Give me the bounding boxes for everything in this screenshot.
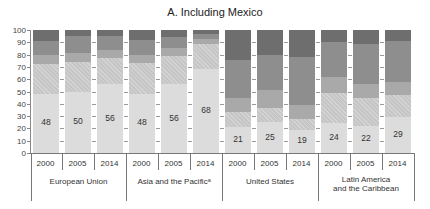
x-year-label: 2005 [158, 159, 189, 168]
x-year-label: 2005 [62, 159, 93, 168]
bar-segment [193, 30, 219, 34]
bar-segment [65, 53, 91, 62]
grid-dash [188, 67, 192, 68]
grid-dash [252, 55, 256, 56]
x-year-label: 2005 [254, 159, 285, 168]
bar-value-label: 24 [321, 132, 347, 142]
chart-title: A. Including Mexico [0, 6, 430, 18]
bar-value-label: 48 [129, 117, 155, 127]
grid-dash [284, 128, 288, 129]
grid-dash [60, 141, 64, 142]
stacked-bar [193, 30, 219, 153]
bar-segment [193, 44, 219, 70]
year-separator [62, 153, 63, 170]
bar-value-label: 25 [257, 132, 283, 142]
grid-dash [348, 92, 352, 93]
grid-dash [156, 116, 160, 117]
grid-dash [284, 79, 288, 80]
group-label-latam: Latin America and the Caribbean [318, 175, 414, 193]
bar-segment [385, 30, 411, 41]
grid-dash [348, 116, 352, 117]
grid-dash [124, 92, 128, 93]
x-year-label: 2014 [382, 159, 413, 168]
grid-dash [92, 128, 96, 129]
grid-dash [124, 128, 128, 129]
grid-dash [252, 104, 256, 105]
year-separator [286, 153, 287, 170]
y-tick-label: 40 [0, 99, 26, 108]
grid-dash [380, 42, 384, 43]
bar-segment [289, 30, 315, 57]
bar-segment [33, 64, 59, 94]
bar-value-label: 22 [353, 133, 379, 143]
bar-segment [65, 36, 91, 53]
bar-segment [385, 41, 411, 82]
grid-dash [92, 141, 96, 142]
grid-dash [92, 55, 96, 56]
grid-dash [348, 79, 352, 80]
bar-segment [161, 30, 187, 37]
stacked-bar [161, 30, 187, 153]
grid-dash [60, 55, 64, 56]
grid-dash [92, 104, 96, 105]
y-tick-label: 90 [0, 38, 26, 47]
year-separator [382, 153, 383, 170]
grid-dash [188, 92, 192, 93]
bar-value-label: 50 [65, 116, 91, 126]
group-label-latam-line1: Latin America [318, 175, 414, 184]
bar-segment [321, 93, 347, 124]
bar-segment [353, 98, 379, 126]
y-tick-label: 30 [0, 112, 26, 121]
grid-dash [284, 116, 288, 117]
grid-dash [188, 141, 192, 142]
grid-dash [60, 42, 64, 43]
x-year-label: 2000 [126, 159, 157, 168]
grid-dash [124, 104, 128, 105]
bar-segment [225, 60, 251, 98]
grid-dash [316, 116, 320, 117]
grid-dash [348, 104, 352, 105]
bar-segment [353, 84, 379, 98]
grid-dash [316, 67, 320, 68]
bar-segment [257, 30, 283, 55]
bar-value-label: 21 [225, 134, 251, 144]
y-tick-label: 50 [0, 87, 26, 96]
bar-segment [353, 44, 379, 85]
bar-segment [321, 42, 347, 76]
grid-dash [316, 92, 320, 93]
y-tick-label: 60 [0, 75, 26, 84]
grid-dash [220, 67, 224, 68]
bar-value-label: 68 [193, 105, 219, 115]
grid-dash [188, 55, 192, 56]
bar-segment [129, 55, 155, 64]
grid-dash [92, 92, 96, 93]
grid-dash [284, 55, 288, 56]
grid-dash [316, 104, 320, 105]
year-separator [94, 153, 95, 170]
grid-dash [124, 116, 128, 117]
grid-dash [380, 116, 384, 117]
grid-dash [220, 141, 224, 142]
y-tick-label: 100 [0, 26, 26, 35]
y-tick-label: 0 [0, 149, 26, 158]
bar-segment [225, 98, 251, 113]
grid-dash [252, 128, 256, 129]
bar-segment [225, 30, 251, 60]
grid-dash [60, 92, 64, 93]
grid-dash [252, 67, 256, 68]
bar-segment [33, 41, 59, 55]
group-label-eu: European Union [31, 177, 126, 186]
bar-segment [257, 90, 283, 107]
bar-segment [289, 119, 315, 130]
bar-segment [321, 30, 347, 42]
grid-dash [188, 42, 192, 43]
bar-segment [289, 57, 315, 105]
bar-value-label: 56 [97, 113, 123, 123]
bar-segment [257, 108, 283, 123]
bar-segment [321, 77, 347, 93]
grid-dash [220, 104, 224, 105]
bar-segment [65, 30, 91, 36]
bar-value-label: 29 [385, 129, 411, 139]
grid-dash [156, 92, 160, 93]
bar-segment [385, 82, 411, 96]
